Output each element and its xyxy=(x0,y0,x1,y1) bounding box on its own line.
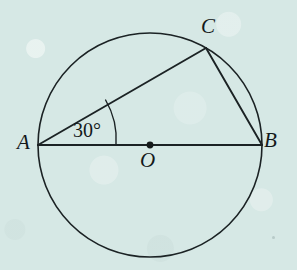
circle-geometry-diagram xyxy=(0,0,297,270)
scan-speck xyxy=(272,236,275,239)
angle-arc-at-a xyxy=(106,100,117,145)
point-label-a: A xyxy=(17,132,30,153)
geometry-figure-canvas: A B C O 30° xyxy=(0,0,297,270)
point-label-c: C xyxy=(201,16,215,37)
point-label-o: O xyxy=(140,150,155,171)
segment-cb xyxy=(206,48,262,145)
segment-ac xyxy=(38,48,206,145)
point-label-b: B xyxy=(264,130,277,151)
angle-measure-label: 30° xyxy=(73,120,101,140)
